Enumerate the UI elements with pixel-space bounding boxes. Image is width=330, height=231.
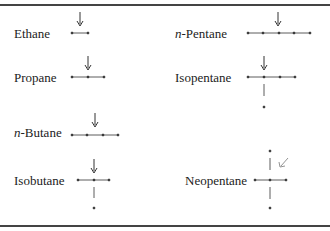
- isopentane-structure: [247, 56, 296, 108]
- ethane-structure: [71, 12, 89, 34]
- isobutane-structure: [77, 159, 110, 209]
- structure-diagrams: [0, 0, 330, 231]
- n-butane-structure: [71, 113, 119, 136]
- neopentane-structure: [254, 150, 288, 209]
- propane-structure: [71, 56, 105, 78]
- n-pentane-structure: [247, 12, 311, 34]
